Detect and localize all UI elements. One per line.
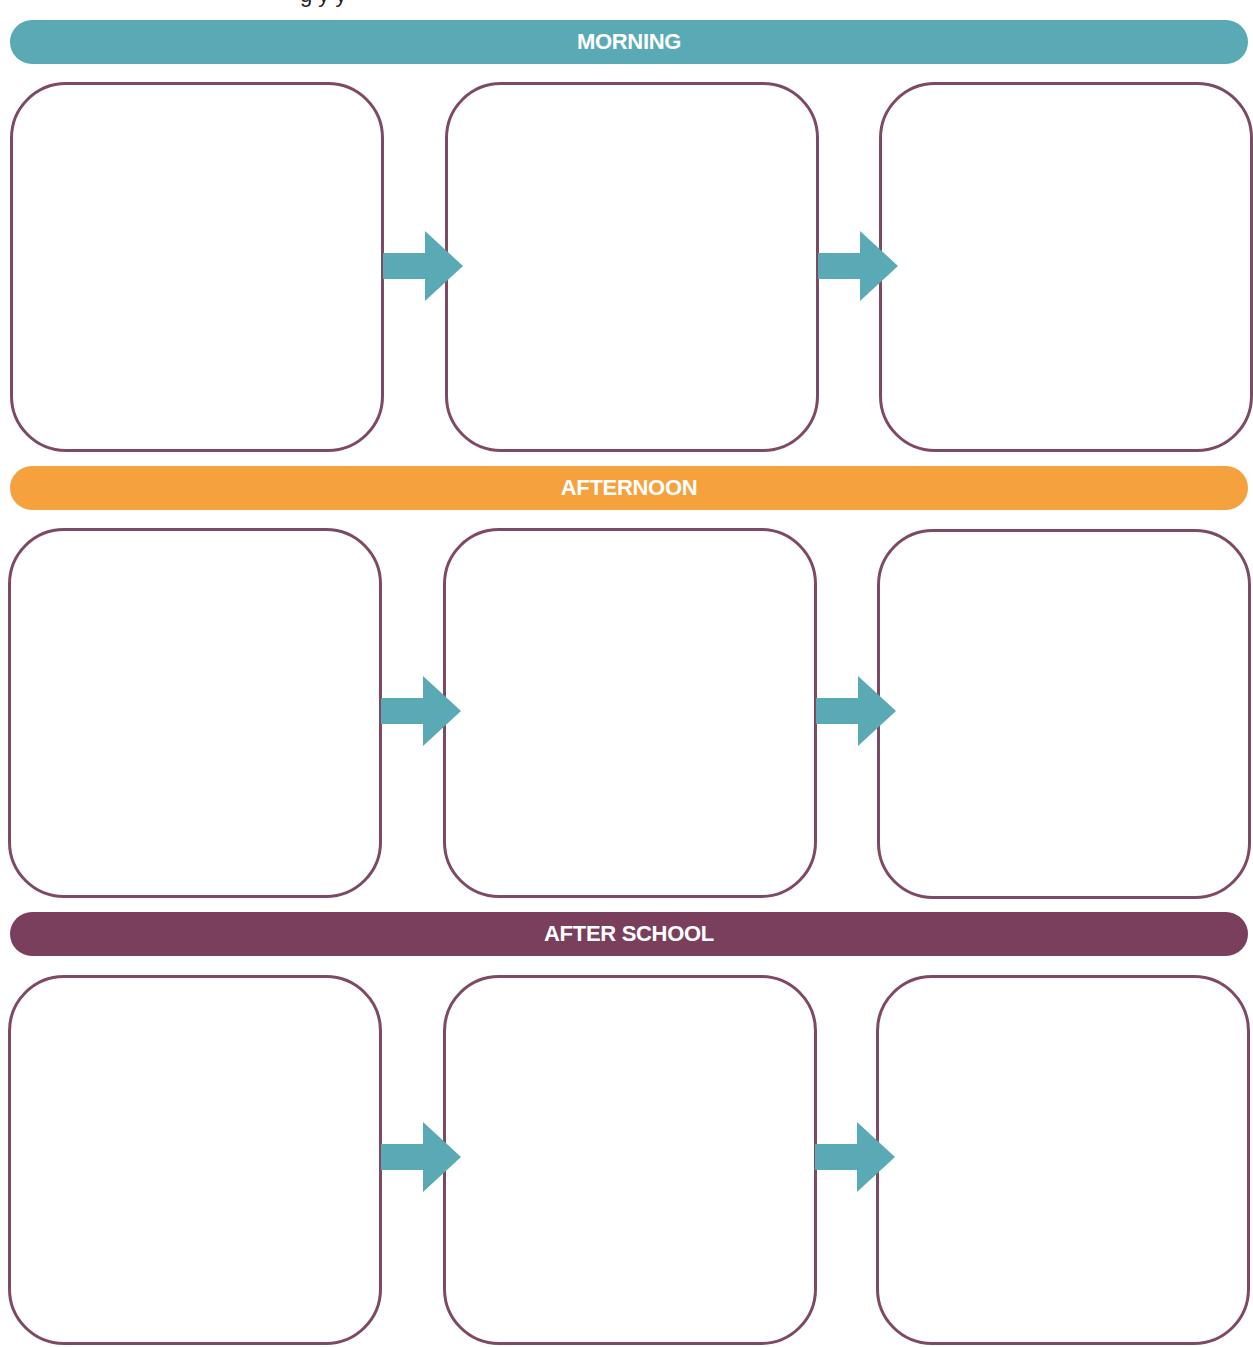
arrow-right-icon	[381, 1122, 461, 1192]
section-bar-after-school: AFTER SCHOOL	[10, 912, 1248, 956]
arrow-right-icon	[381, 676, 461, 746]
section-label-afternoon: AFTERNOON	[561, 475, 698, 501]
morning-box-2[interactable]	[445, 82, 819, 452]
section-label-morning: MORNING	[577, 29, 681, 55]
section-bar-morning: MORNING	[10, 20, 1248, 64]
arrow-right-icon	[383, 231, 463, 301]
arrow-right-icon	[818, 231, 898, 301]
section-bar-afternoon: AFTERNOON	[10, 466, 1248, 510]
afternoon-box-2[interactable]	[443, 528, 817, 898]
after-school-box-1[interactable]	[8, 975, 382, 1345]
after-school-box-2[interactable]	[443, 975, 817, 1345]
afternoon-box-3[interactable]	[877, 529, 1251, 899]
after-school-box-3[interactable]	[876, 975, 1250, 1345]
section-label-after-school: AFTER SCHOOL	[544, 921, 714, 947]
morning-box-1[interactable]	[10, 82, 384, 452]
partial-title-text: g y y	[300, 0, 346, 8]
morning-box-3[interactable]	[879, 82, 1253, 452]
arrow-right-icon	[816, 676, 896, 746]
afternoon-box-1[interactable]	[8, 528, 382, 898]
arrow-right-icon	[815, 1122, 895, 1192]
